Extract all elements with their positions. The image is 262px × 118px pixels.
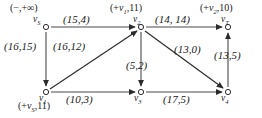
annot-prefix-vT: (+ bbox=[200, 2, 209, 13]
edge-label-vS-v2: (15,4) bbox=[63, 14, 90, 25]
node-annotation-v2: (+v1,11) bbox=[110, 3, 142, 16]
edge-label-v2-vT: (14, 14) bbox=[155, 14, 190, 25]
flow-network-diagram: (−,+∞) (+v1,11) (+v2,10) (+vS,11) vS v2 … bbox=[0, 0, 262, 118]
node-annotation-vS: (−,+∞) bbox=[10, 3, 38, 13]
node-label-v1: v1 bbox=[39, 94, 46, 105]
edge-label-v2-v3: (5,2) bbox=[126, 60, 147, 71]
node-label-v1-sub: 1 bbox=[43, 98, 46, 105]
annot-prefix-v1: (+ bbox=[18, 100, 27, 111]
edge-label-v4-vT: (13,5) bbox=[214, 50, 241, 61]
edge-v2-to-v4 bbox=[145, 31, 223, 88]
node-label-v3: v3 bbox=[134, 94, 141, 105]
node-label-vS-sub: S bbox=[37, 19, 40, 26]
edge-label-v1-v3: (10,3) bbox=[66, 94, 93, 105]
node-label-v4-sub: 4 bbox=[225, 98, 228, 105]
node-label-v4: v4 bbox=[221, 94, 228, 105]
node-label-vT: vT bbox=[221, 15, 229, 26]
edge-label-v2-v4: (13,0) bbox=[174, 44, 201, 55]
edge-label-v3-v4: (17,5) bbox=[163, 94, 190, 105]
edge-label-vS-v1: (16,15) bbox=[4, 41, 36, 52]
edge-label-v1-v2: (16,12) bbox=[53, 41, 85, 52]
node-label-v3-sub: 3 bbox=[138, 98, 141, 105]
annot-prefix-v2: (+ bbox=[110, 2, 119, 13]
node-label-v2-sub: 2 bbox=[137, 19, 140, 26]
annot-suffix-v2: ,11) bbox=[127, 2, 142, 13]
node-vS bbox=[43, 24, 48, 29]
node-label-vT-sub: T bbox=[225, 19, 229, 26]
node-annotation-vT: (+v2,10) bbox=[200, 3, 233, 16]
node-label-v2: v2 bbox=[133, 15, 140, 26]
node-label-vS: vS bbox=[33, 15, 40, 26]
annot-suffix-vT: ,10) bbox=[217, 2, 233, 13]
